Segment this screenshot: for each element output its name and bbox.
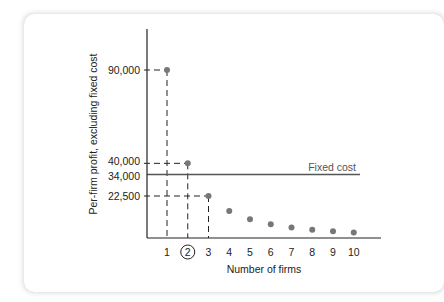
x-tick-label: 8: [309, 246, 315, 258]
dashed-guides: [144, 70, 209, 238]
y-tick-label: 34,000: [108, 170, 140, 182]
y-axis-title: Per-firm profit, excluding fixed cost: [87, 53, 99, 214]
x-tick-label: 5: [247, 246, 253, 258]
x-axis-title: Number of firms: [227, 263, 302, 275]
y-tick-label: 90,000: [108, 64, 140, 76]
data-point: [330, 228, 336, 234]
y-tick-label: 22,500: [108, 190, 140, 202]
data-point: [164, 67, 170, 73]
x-tick-labels: 12345678910: [164, 245, 360, 259]
x-tick-label: 6: [268, 246, 274, 258]
data-point: [351, 229, 357, 235]
data-point: [289, 225, 295, 231]
data-point: [226, 208, 232, 214]
y-tick-labels: 90,00040,00034,00022,500: [108, 64, 140, 202]
y-tick-label: 40,000: [108, 155, 140, 167]
data-point: [268, 221, 274, 227]
data-point: [309, 227, 315, 233]
data-point: [247, 216, 253, 222]
x-tick-label: 7: [289, 246, 295, 258]
x-tick-label: 3: [206, 246, 212, 258]
data-point: [185, 160, 191, 166]
x-tick-label: 2: [185, 246, 191, 258]
x-tick-label: 1: [164, 246, 170, 258]
x-tick-label: 4: [226, 246, 232, 258]
data-point: [206, 193, 212, 199]
x-tick-label: 10: [348, 246, 360, 258]
x-tick-label: 9: [330, 246, 336, 258]
fixed-cost-label: Fixed cost: [308, 161, 356, 173]
data-points: [164, 67, 357, 235]
